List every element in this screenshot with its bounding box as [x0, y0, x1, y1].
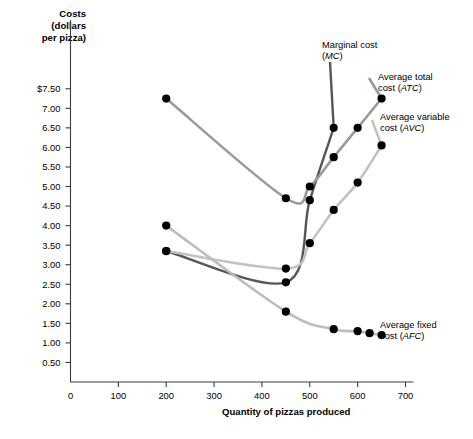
data-point-atc — [162, 94, 170, 102]
data-point-avc — [330, 206, 338, 214]
x-tick-label: 600 — [350, 390, 366, 401]
data-point-afc — [354, 327, 362, 335]
curve-atc — [166, 99, 381, 204]
label-marginal-cost-line1: Marginal cost — [322, 40, 377, 51]
label-average-total-cost: Average total cost (ATC) — [378, 72, 433, 95]
y-tick-label: 6.50 — [42, 122, 60, 133]
data-point-mc — [282, 278, 290, 286]
label-marginal-cost-abbrev: MC — [325, 51, 339, 61]
data-point-atc — [306, 182, 314, 190]
y-tick-label: 4.50 — [42, 200, 60, 211]
x-axis-ticks: 0100200300400500600700 — [68, 382, 413, 401]
data-point-atc — [330, 153, 338, 161]
x-tick-label: 400 — [254, 390, 270, 401]
y-tick-label: 2.50 — [42, 279, 60, 290]
y-tick-label: 3.50 — [42, 240, 60, 251]
y-tick-label: 7.00 — [42, 103, 60, 114]
x-axis-title: Quantity of pizzas produced — [222, 406, 351, 417]
data-point-atc — [354, 124, 362, 132]
x-tick-label: 200 — [158, 390, 174, 401]
data-point-avc — [282, 265, 290, 273]
label-average-total-cost-line1: Average total — [378, 72, 433, 83]
data-point-afc — [282, 308, 290, 316]
data-point-atc — [377, 94, 385, 102]
label-marginal-cost: Marginal cost (MC) — [322, 40, 377, 63]
x-tick-label: 300 — [206, 390, 222, 401]
y-tick-label: 0.50 — [42, 357, 60, 368]
x-tick-label: 700 — [398, 390, 414, 401]
data-point-atc — [282, 194, 290, 202]
label-average-total-cost-line2: cost (ATC) — [378, 83, 433, 94]
y-tick-label: 2.00 — [42, 298, 60, 309]
curve-mc — [166, 128, 333, 284]
label-marginal-cost-line2: (MC) — [322, 51, 377, 62]
y-tick-label: 3.00 — [42, 259, 60, 270]
data-point-mc — [330, 124, 338, 132]
data-point-avc — [306, 239, 314, 247]
data-point-afc — [366, 329, 374, 337]
label-average-variable-cost-abbrev: AVC — [403, 123, 422, 133]
data-point-avc — [377, 141, 385, 149]
data-point-afc — [162, 222, 170, 230]
y-tick-label: 6.00 — [42, 142, 60, 153]
curve-afc — [166, 226, 381, 335]
data-point-afc — [330, 325, 338, 333]
x-tick-label: 0 — [68, 390, 73, 401]
data-point-avc — [162, 247, 170, 255]
y-tick-label: 1.50 — [42, 318, 60, 329]
plot-area: 0.501.001.502.002.503.003.504.004.505.00… — [0, 0, 473, 439]
label-average-total-cost-abbrev: ATC — [401, 83, 419, 93]
y-axis-ticks: 0.501.001.502.002.503.003.504.004.505.00… — [37, 83, 70, 368]
x-tick-label: 100 — [111, 390, 127, 401]
y-tick-label: $7.50 — [37, 83, 60, 94]
label-average-fixed-cost: Average fixed cost (AFC) — [380, 320, 437, 343]
label-average-fixed-cost-line1: Average fixed — [380, 320, 437, 331]
label-average-variable-cost-line1: Average variable — [380, 112, 450, 123]
curve-lines — [166, 62, 381, 335]
annotation-leader — [330, 62, 334, 128]
y-tick-label: 4.00 — [42, 220, 60, 231]
label-average-variable-cost-line2: cost (AVC) — [380, 123, 450, 134]
label-average-fixed-cost-abbrev: AFC — [403, 331, 422, 341]
data-point-avc — [354, 179, 362, 187]
cost-curves-chart: Costs (dollars per pizza) 0.501.001.502.… — [0, 0, 473, 439]
label-average-fixed-cost-line2: cost (AFC) — [380, 331, 437, 342]
x-tick-label: 500 — [302, 390, 318, 401]
label-average-variable-cost: Average variable cost (AVC) — [380, 112, 450, 135]
y-tick-label: 5.50 — [42, 161, 60, 172]
data-point-mc — [306, 196, 314, 204]
y-tick-label: 5.00 — [42, 181, 60, 192]
y-tick-label: 1.00 — [42, 337, 60, 348]
